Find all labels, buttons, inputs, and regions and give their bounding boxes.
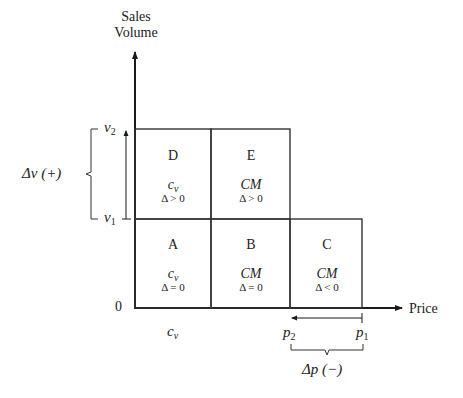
- v2-label: v2: [104, 120, 116, 137]
- cell-d-letter: D: [135, 149, 211, 163]
- cell-b-var: CM: [213, 267, 289, 281]
- cell-a-box: [135, 219, 211, 308]
- cell-a-delta: Δ = 0: [135, 282, 211, 293]
- cell-b-delta: Δ = 0: [213, 282, 289, 293]
- cell-e-var: CM: [213, 178, 289, 192]
- delta-v-brace: [86, 129, 98, 219]
- cell-d-delta: Δ > 0: [135, 193, 211, 204]
- cell-c-var: CM: [289, 267, 365, 281]
- cell-e-box: [211, 129, 290, 219]
- delta-p-label: Δp (−): [302, 362, 342, 377]
- delta-p-brace: [291, 344, 363, 355]
- y-axis-title: Sales Volume: [106, 10, 166, 40]
- y-axis-title-line2: Volume: [106, 26, 166, 40]
- cell-b-letter: B: [213, 238, 289, 252]
- y-axis-title-line1: Sales: [106, 10, 166, 24]
- cell-b-box: [211, 219, 290, 308]
- p2-label: p2: [283, 325, 296, 342]
- v1-label: v1: [104, 210, 116, 227]
- cell-d-box: [135, 129, 211, 219]
- cell-e-letter: E: [213, 149, 289, 163]
- origin-label: 0: [115, 300, 122, 314]
- p1-label: p1: [356, 325, 369, 342]
- delta-v-label: Δv (+): [22, 166, 61, 181]
- cell-e-delta: Δ > 0: [213, 193, 289, 204]
- cell-a-letter: A: [135, 238, 211, 252]
- cell-c-letter: C: [289, 238, 365, 252]
- cv-label: cv: [167, 324, 178, 341]
- cell-c-box: [290, 219, 362, 308]
- cell-c-delta: Δ < 0: [289, 282, 365, 293]
- x-axis-title: Price: [409, 302, 438, 316]
